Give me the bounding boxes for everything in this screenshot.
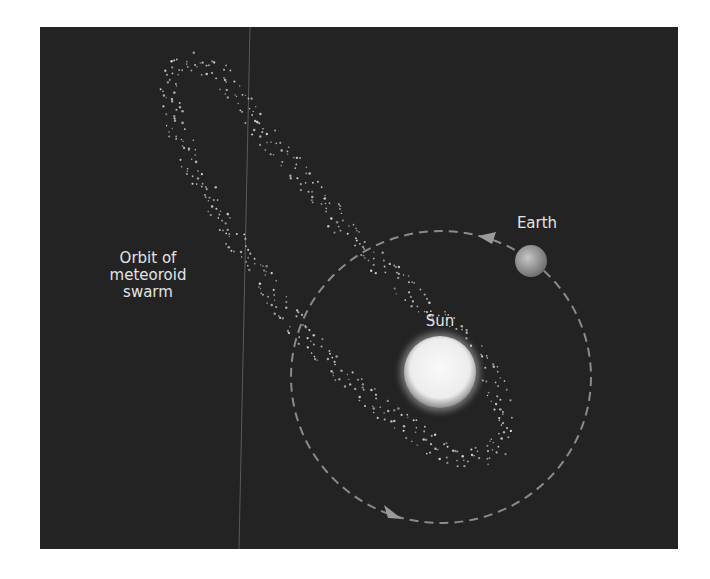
earth-direction-arrow-icon xyxy=(478,232,496,244)
orbit-direction-arrow-icon xyxy=(384,505,402,519)
swarm-label-line2: meteoroid xyxy=(110,266,187,284)
earth-label: Earth xyxy=(517,214,557,232)
meteoroid-orbit-diagram: Orbit of meteoroid swarm Earth Sun xyxy=(0,0,710,579)
divider-line xyxy=(239,27,250,549)
swarm-label-line3: swarm xyxy=(123,283,173,301)
swarm-label-line1: Orbit of xyxy=(120,249,177,267)
earth xyxy=(515,245,547,277)
sun-label: Sun xyxy=(426,312,455,330)
sun xyxy=(404,336,476,408)
